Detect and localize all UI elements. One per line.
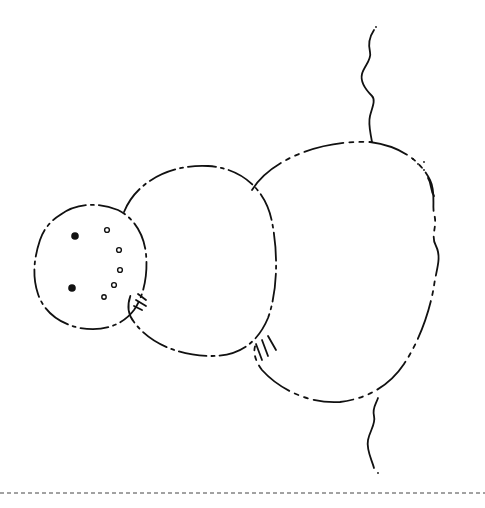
left-eye (71, 232, 79, 240)
bottom-body (252, 142, 439, 402)
snowman-drawing (0, 0, 485, 508)
snow-ground (362, 26, 379, 474)
middle-body (124, 166, 276, 356)
head (34, 205, 146, 329)
mouth (102, 228, 123, 300)
right-eye (68, 284, 76, 292)
